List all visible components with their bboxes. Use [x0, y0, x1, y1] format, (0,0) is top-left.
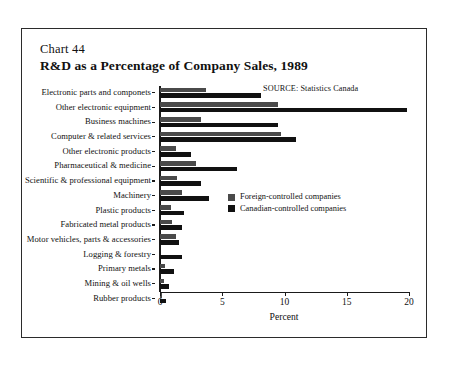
bar-foreign: [160, 264, 165, 269]
bar-group: [160, 248, 409, 263]
y-tick-icon: [152, 254, 156, 255]
category-label-row: Other electronic equipment: [0, 101, 155, 116]
bar-group: [160, 86, 409, 101]
category-label-row: Scientific & professional equipment: [0, 174, 155, 189]
category-label: Pharmaceutical & medicine: [54, 160, 151, 170]
category-label: Electronic parts and componets: [41, 87, 151, 97]
bar-group: [160, 277, 409, 292]
plot-area: [160, 86, 409, 292]
y-tick-icon: [152, 210, 156, 211]
y-tick-icon: [152, 180, 156, 181]
bar-group: [160, 174, 409, 189]
x-tick-label: 10: [280, 297, 290, 307]
bar-canadian: [160, 181, 201, 186]
y-tick-icon: [152, 224, 156, 225]
category-label: Scientific & professional equipment: [25, 175, 151, 185]
category-label: Other electronic equipment: [56, 102, 151, 112]
x-tick-label: 0: [158, 297, 163, 307]
legend-label-foreign: Foreign-controlled companies: [240, 192, 341, 203]
legend-item-foreign: Foreign-controlled companies: [228, 192, 346, 203]
bar-group: [160, 233, 409, 248]
x-tick-icon: [409, 292, 410, 296]
x-tick-icon: [222, 292, 223, 296]
bar-foreign: [160, 220, 172, 225]
category-label-row: Other electronic products: [0, 145, 155, 160]
category-label-row: Motor vehicles, parts & accessories: [0, 233, 155, 248]
y-tick-icon: [152, 298, 156, 299]
y-tick-icon: [152, 151, 156, 152]
bar-foreign: [160, 176, 177, 181]
bar-foreign: [160, 117, 201, 122]
bar-canadian: [160, 211, 184, 216]
legend-item-canadian: Canadian-controlled companies: [228, 204, 346, 215]
category-label-row: Rubber products: [0, 292, 155, 307]
bar-canadian: [160, 108, 407, 113]
x-tick-icon: [285, 292, 286, 296]
bar-foreign: [160, 102, 278, 107]
bar-group: [160, 115, 409, 130]
category-label-row: Plastic products: [0, 204, 155, 219]
page-title: R&D as a Percentage of Company Sales, 19…: [40, 58, 308, 74]
bar-group: [160, 262, 409, 277]
category-label-row: Pharmaceutical & medicine: [0, 159, 155, 174]
x-tick-icon: [160, 292, 161, 296]
bar-group: [160, 101, 409, 116]
bar-foreign: [160, 161, 196, 166]
category-label: Plastic products: [96, 205, 151, 215]
bar-group: [160, 159, 409, 174]
category-label: Rubber products: [93, 293, 151, 303]
x-tick-label: 15: [342, 297, 352, 307]
x-tick-label: 20: [404, 297, 414, 307]
category-label: Logging & forestry: [83, 249, 151, 259]
legend-swatch-foreign-icon: [228, 194, 235, 201]
bar-canadian: [160, 284, 169, 289]
y-tick-icon: [152, 122, 156, 123]
bar-foreign: [160, 88, 206, 93]
bar-group: [160, 145, 409, 160]
bar-canadian: [160, 225, 182, 230]
y-tick-icon: [152, 239, 156, 240]
y-tick-icon: [152, 166, 156, 167]
bar-foreign: [160, 190, 182, 195]
bar-foreign: [160, 205, 171, 210]
y-tick-icon: [152, 283, 156, 284]
bar-foreign: [160, 234, 176, 239]
category-label-row: Primary metals: [0, 262, 155, 277]
category-label-row: Electronic parts and componets: [0, 86, 155, 101]
bar-canadian: [160, 93, 261, 98]
legend-label-canadian: Canadian-controlled companies: [240, 204, 346, 215]
category-label: Motor vehicles, parts & accessories: [27, 234, 151, 244]
x-axis-title: Percent: [270, 311, 299, 322]
category-label: Machinery: [113, 190, 151, 200]
bar-foreign: [160, 279, 164, 284]
category-label: Mining & oil wells: [84, 278, 151, 288]
category-label: Other electronic products: [62, 146, 151, 156]
category-label: Primary metals: [98, 263, 151, 273]
bar-canadian: [160, 167, 237, 172]
x-tick-icon: [347, 292, 348, 296]
legend-swatch-canadian-icon: [228, 205, 235, 212]
bar-foreign: [160, 132, 281, 137]
bar-canadian: [160, 123, 278, 128]
y-tick-icon: [152, 92, 156, 93]
category-label: Computer & related services: [51, 131, 151, 141]
legend: Foreign-controlled companies Canadian-co…: [228, 192, 346, 215]
category-label: Business machines: [85, 116, 151, 126]
y-tick-icon: [152, 107, 156, 108]
category-label: Fabricated metal products: [61, 219, 152, 229]
y-tick-icon: [152, 268, 156, 269]
category-labels: Electronic parts and componetsOther elec…: [0, 86, 155, 292]
bar-canadian: [160, 137, 296, 142]
bar-canadian: [160, 196, 209, 201]
bar-canadian: [160, 152, 191, 157]
y-tick-icon: [152, 136, 156, 137]
bar-group: [160, 130, 409, 145]
y-tick-icon: [152, 195, 156, 196]
x-tick-label: 5: [220, 297, 225, 307]
category-label-row: Mining & oil wells: [0, 277, 155, 292]
category-label-row: Business machines: [0, 115, 155, 130]
category-label-row: Fabricated metal products: [0, 218, 155, 233]
bar-foreign: [160, 146, 176, 151]
bar-canadian: [160, 240, 179, 245]
chart-number: Chart 44: [40, 42, 85, 57]
